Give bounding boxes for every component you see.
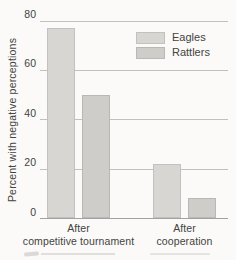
rattlers-legend-swatch [136,47,165,59]
legend-item-eagles: Eagles [136,31,210,44]
x-category-label-after-cooperation: Aftercooperation [115,222,237,247]
bar-eagles-after-cooperation [153,164,181,218]
eagles-legend-swatch [136,32,165,44]
y-tick-label-0: 0 [6,206,36,219]
bar-chart-figure: Percent with negative perceptions 020406… [0,0,236,260]
bar-eagles-after-competitive-tournament [47,28,75,218]
y-tick-label-60: 60 [6,57,36,70]
bar-rattlers-after-cooperation [188,198,216,218]
y-tick-label-20: 20 [6,156,36,169]
gridline-80 [40,21,228,22]
legend-item-rattlers: Rattlers [136,46,210,59]
legend-label-rattlers: Rattlers [172,46,210,59]
y-tick-label-80: 80 [6,8,36,21]
x-axis-line [40,218,228,219]
y-tick-label-40: 40 [6,107,36,120]
bar-rattlers-after-competitive-tournament [82,95,110,218]
legend: EaglesRattlers [136,31,210,59]
legend-label-eagles: Eagles [172,31,206,44]
